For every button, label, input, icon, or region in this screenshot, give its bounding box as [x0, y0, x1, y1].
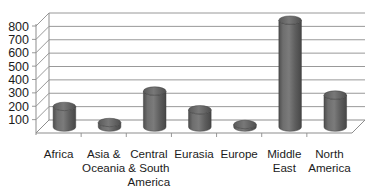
bar-cap — [279, 16, 302, 24]
bar-body — [143, 91, 166, 131]
bar — [234, 120, 257, 131]
bar — [98, 118, 121, 131]
x-tick-label: Africa — [44, 147, 74, 160]
gridline — [36, 26, 365, 39]
gridline — [36, 93, 365, 106]
bar — [324, 91, 347, 132]
gridlines — [36, 13, 365, 120]
gridline — [36, 40, 365, 53]
bar — [189, 106, 212, 132]
gridline — [36, 67, 365, 80]
x-tick-label: America — [128, 175, 171, 188]
x-tick-label: East — [273, 161, 297, 174]
bar — [279, 16, 302, 131]
bar-cap — [189, 106, 212, 114]
x-tick-label: North — [315, 147, 343, 160]
bar-cap — [53, 102, 76, 110]
bar-cap — [324, 91, 347, 99]
bar-chart: 100200300400500600700800 AfricaAsia &Oce… — [0, 0, 366, 194]
bars — [53, 16, 346, 131]
gridline — [36, 80, 365, 93]
x-tick-label: America — [308, 161, 351, 174]
y-axis — [32, 13, 49, 135]
y-tick-label: 600 — [8, 46, 29, 60]
bar — [143, 87, 166, 132]
x-tick-labels: AfricaAsia &OceaniaCentral& SouthAmerica… — [44, 147, 351, 188]
y-tick-labels: 100200300400500600700800 — [8, 20, 29, 128]
bar-cap — [143, 87, 166, 95]
bar-cap — [234, 120, 257, 128]
chart-canvas: 100200300400500600700800 AfricaAsia &Oce… — [0, 0, 366, 194]
x-tick-label: Oceania — [82, 161, 126, 174]
y-tick-label: 400 — [8, 73, 29, 87]
x-tick-label: Middle — [267, 147, 301, 160]
bar-body — [324, 95, 347, 131]
y-tick-label: 800 — [8, 20, 29, 34]
y-tick-label: 100 — [8, 113, 29, 127]
x-tick-label: Europe — [220, 147, 257, 160]
x-tick-label: Eurasia — [174, 147, 214, 160]
y-tick-label: 700 — [8, 33, 29, 47]
x-tick-label: & South — [128, 161, 169, 174]
x-tick-label: Asia & — [87, 147, 121, 160]
y-tick-label: 200 — [8, 100, 29, 114]
x-tick-label: Central — [130, 147, 167, 160]
gridline — [36, 53, 365, 66]
y-tick-label: 300 — [8, 86, 29, 100]
bar-cap — [98, 118, 121, 126]
gridline — [36, 13, 365, 26]
y-tick-label: 500 — [8, 60, 29, 74]
x-axis — [81, 133, 307, 137]
bar-body — [279, 20, 302, 131]
bar — [53, 102, 76, 131]
